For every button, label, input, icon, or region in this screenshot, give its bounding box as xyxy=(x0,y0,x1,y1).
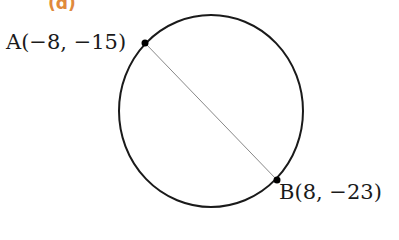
point-b-label: B(8, −23) xyxy=(279,180,382,204)
diameter-segment xyxy=(145,43,277,180)
point-a xyxy=(142,40,149,47)
point-a-label: A(−8, −15) xyxy=(6,30,126,54)
